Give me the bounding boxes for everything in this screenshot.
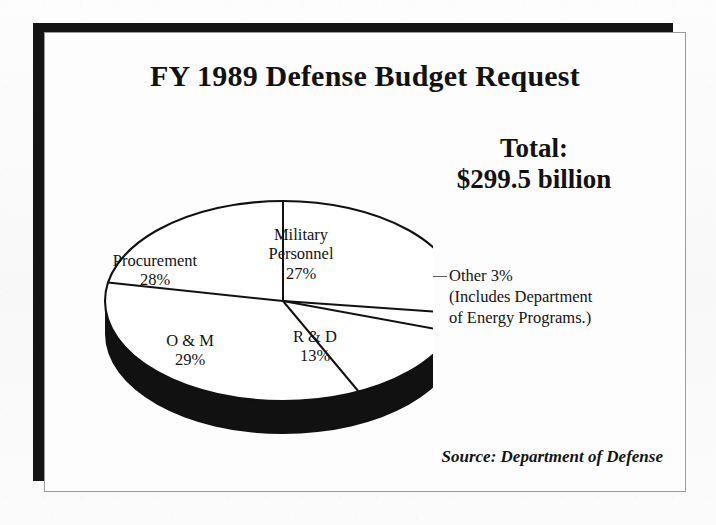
slice-name-military-personnel-line1: Military [237, 225, 365, 244]
slice-pct-military-personnel: 27% [237, 264, 365, 283]
other-note-line-1: (Includes Department [449, 286, 681, 307]
source-note: Source: Department of Defense [442, 447, 663, 467]
slice-pct-rd: 13% [265, 346, 365, 365]
total-label: Total: [403, 133, 665, 164]
slice-label-om: O & M 29% [135, 331, 245, 370]
chart-card: FY 1989 Defense Budget Request Total: $2… [44, 32, 686, 492]
slice-name-procurement: Procurement [81, 251, 229, 270]
other-note-line-2: of Energy Programs.) [449, 307, 681, 328]
slice-label-military-personnel: Military Personnel 27% [237, 225, 365, 283]
other-label: Other 3% [449, 265, 681, 286]
slice-label-rd: R & D 13% [265, 327, 365, 366]
slice-name-rd: R & D [265, 327, 365, 346]
slice-name-military-personnel-line2: Personnel [237, 244, 365, 263]
pie-chart: Procurement 28% Military Personnel 27% O… [53, 163, 433, 463]
total-callout: Total: $299.5 billion [403, 133, 665, 196]
slice-pct-om: 29% [135, 350, 245, 369]
other-slice-callout: Other 3% (Includes Department of Energy … [449, 265, 681, 328]
slice-name-om: O & M [135, 331, 245, 350]
total-value: $299.5 billion [403, 164, 665, 195]
page-title: FY 1989 Defense Budget Request [45, 59, 685, 93]
pie-chart-svg [53, 163, 433, 463]
slice-pct-procurement: 28% [81, 270, 229, 289]
slice-label-procurement: Procurement 28% [81, 251, 229, 290]
